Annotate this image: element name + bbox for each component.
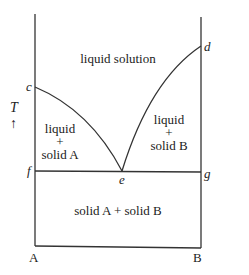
region-liquid-solid-a-line3: solid A [41, 147, 79, 162]
point-e-label: e [119, 172, 125, 187]
region-liquid-solution: liquid solution [80, 51, 156, 66]
region-liquid-solid-b-line3: solid B [150, 138, 188, 153]
component-b-label: B [193, 250, 202, 265]
eutectic-line-fg [35, 171, 201, 172]
point-d-label: d [204, 39, 211, 54]
region-solid-a-solid-b: solid A + solid B [74, 203, 162, 218]
temperature-label: T [10, 100, 19, 115]
bottom-line [35, 246, 201, 248]
phase-diagram: c d e f g T ↑ A B liquid solution liquid… [0, 0, 249, 275]
point-c-label: c [26, 79, 32, 94]
point-f-label: f [27, 163, 33, 178]
temperature-arrow-icon: ↑ [10, 116, 17, 131]
component-a-label: A [29, 250, 39, 265]
point-g-label: g [204, 166, 211, 181]
